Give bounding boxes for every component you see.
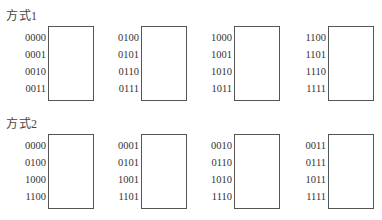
- address-label: 0100: [99, 32, 139, 43]
- address-label: 1010: [192, 66, 232, 77]
- address-label: 0111: [286, 157, 326, 168]
- address-label: 0011: [6, 83, 46, 94]
- address-label: 0110: [99, 66, 139, 77]
- address-label: 0000: [6, 140, 46, 151]
- address-label: 1011: [286, 174, 326, 185]
- memory-block: [141, 134, 187, 209]
- address-label: 0010: [192, 140, 232, 151]
- address-label: 1111: [286, 83, 326, 94]
- memory-block: [328, 134, 374, 209]
- address-label: 0001: [6, 49, 46, 60]
- address-label: 0101: [99, 157, 139, 168]
- section-title: 方式1: [6, 6, 38, 24]
- address-label: 1101: [99, 191, 139, 202]
- address-label: 0010: [6, 66, 46, 77]
- address-label: 0101: [99, 49, 139, 60]
- address-label: 1110: [192, 191, 232, 202]
- address-label: 0100: [6, 157, 46, 168]
- address-label: 1111: [286, 191, 326, 202]
- address-label: 0111: [99, 83, 139, 94]
- address-label: 0011: [286, 140, 326, 151]
- address-label: 1100: [286, 32, 326, 43]
- address-label: 1000: [192, 32, 232, 43]
- memory-block: [141, 26, 187, 101]
- section-title: 方式2: [6, 114, 38, 132]
- address-label: 0001: [99, 140, 139, 151]
- address-label: 1010: [192, 174, 232, 185]
- address-label: 1000: [6, 174, 46, 185]
- address-label: 0000: [6, 32, 46, 43]
- address-label: 0110: [192, 157, 232, 168]
- address-label: 1100: [6, 191, 46, 202]
- memory-block: [328, 26, 374, 101]
- address-label: 1001: [99, 174, 139, 185]
- address-label: 1001: [192, 49, 232, 60]
- address-label: 1101: [286, 49, 326, 60]
- memory-block: [48, 134, 94, 209]
- address-label: 1011: [192, 83, 232, 94]
- memory-block: [48, 26, 94, 101]
- memory-block: [234, 26, 280, 101]
- address-label: 1110: [286, 66, 326, 77]
- memory-block: [234, 134, 280, 209]
